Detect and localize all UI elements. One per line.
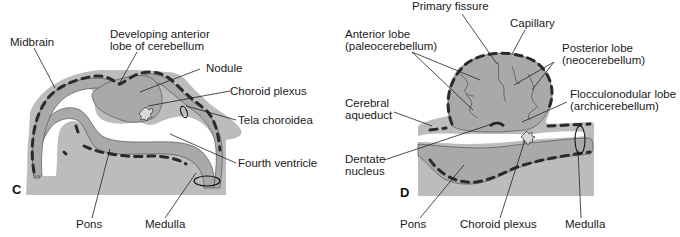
label-developing-anterior-lobe-line2: lobe of cerebellum (110, 40, 204, 52)
label-capillary: Capillary (510, 17, 555, 29)
label-posterior-lobe-line1: Posterior lobe (562, 42, 633, 54)
panel-d: Primary fissure Capillary Anterior lobe … (345, 0, 676, 230)
label-nodule: Nodule (206, 62, 242, 74)
label-developing-anterior-lobe-line1: Developing anterior (110, 28, 210, 40)
label-flocculonodular-line1: Flocculonodular lobe (570, 88, 676, 100)
label-choroid-plexus-d: Choroid plexus (460, 218, 537, 230)
panel-letter-c: C (12, 182, 22, 197)
leader-capillary (512, 30, 525, 54)
leader-cerebral-aqueduct (394, 112, 432, 126)
label-fourth-ventricle: Fourth ventricle (238, 157, 317, 169)
label-anterior-lobe-line2: (paleocerebellum) (345, 40, 437, 52)
panel-c: Midbrain Developing anterior lobe of cer… (10, 28, 317, 230)
label-flocculonodular-line2: (archicerebellum) (570, 100, 659, 112)
label-midbrain: Midbrain (10, 36, 54, 48)
label-medulla-d: Medulla (565, 218, 606, 230)
label-tela-choroidea: Tela choroidea (238, 114, 313, 126)
label-cerebral-aqueduct-line1: Cerebral (345, 97, 389, 109)
label-pons-c: Pons (76, 218, 102, 230)
cerebellum-development-diagram: Midbrain Developing anterior lobe of cer… (0, 0, 680, 237)
label-dentate-nucleus-line1: Dentate (345, 153, 385, 165)
panel-letter-d: D (400, 185, 409, 200)
label-primary-fissure: Primary fissure (412, 0, 489, 12)
label-dentate-nucleus-line2: nucleus (345, 165, 385, 177)
label-anterior-lobe-line1: Anterior lobe (345, 28, 410, 40)
label-choroid-plexus-c: Choroid plexus (230, 85, 307, 97)
label-pons-d: Pons (400, 218, 426, 230)
label-posterior-lobe-line2: (neocerebellum) (562, 54, 645, 66)
label-medulla-c: Medulla (145, 218, 186, 230)
label-cerebral-aqueduct-line2: aqueduct (345, 109, 393, 121)
leader-midbrain (34, 48, 55, 88)
